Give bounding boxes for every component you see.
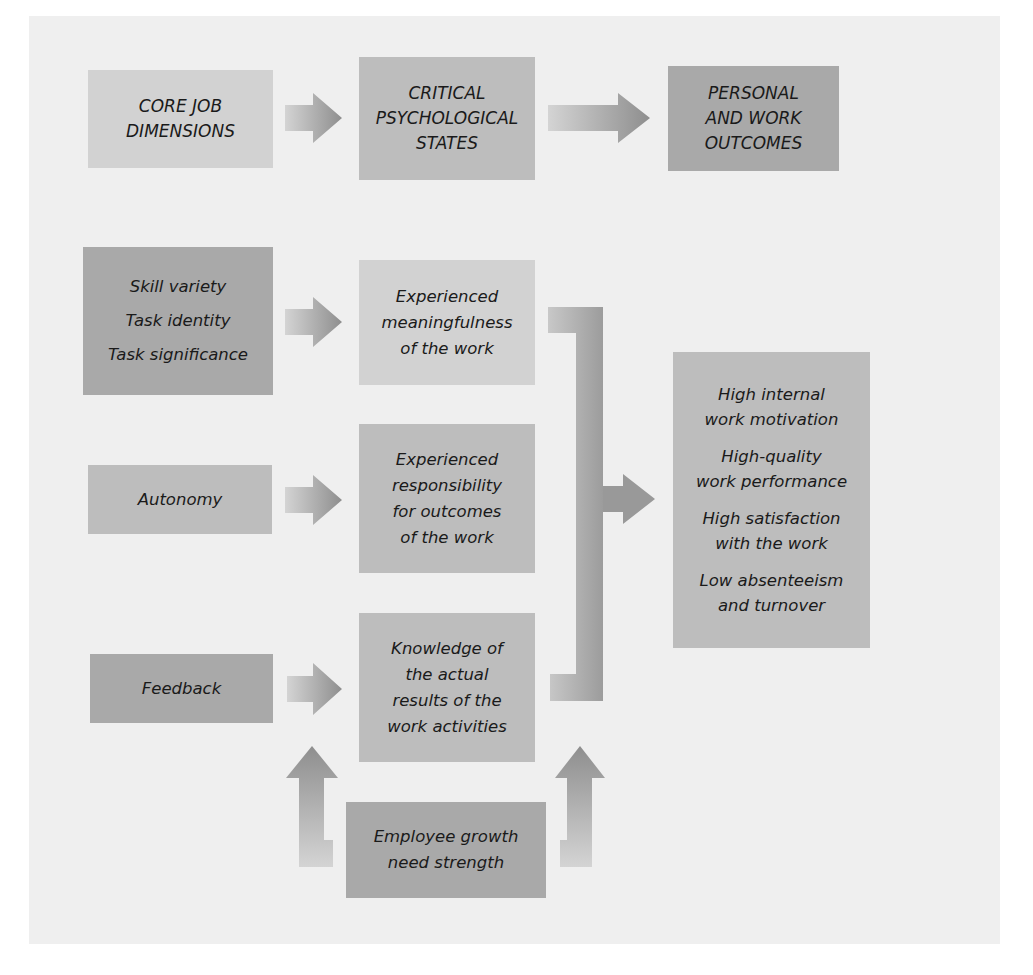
moderator-box-growth-need-strength: Employee growth need strength [346,802,546,898]
outcome-absenteeism-turnover: Low absenteeism and turnover [700,568,844,618]
header-line: CORE JOB [139,94,222,119]
state-box-meaningfulness: Experienced meaningfulness of the work [359,260,535,385]
moderator-line: need strength [388,850,504,876]
dimension-task-identity: Task identity [126,306,231,336]
state-line: for outcomes [393,499,502,525]
moderator-line: Employee growth [374,824,519,850]
outcome-satisfaction: High satisfaction with the work [702,506,840,556]
arrow-moderator-left-up-icon [286,746,338,867]
dimension-autonomy: Autonomy [138,487,223,513]
personal-work-outcomes-header: PERSONAL AND WORK OUTCOMES [668,66,839,171]
state-line: work activities [387,714,507,740]
outcome-line: High internal [705,382,839,407]
header-line: CRITICAL [408,81,485,106]
outcome-line: with the work [702,531,840,556]
outcome-line: work performance [696,469,847,494]
state-line: Experienced [396,447,499,473]
dimension-box-feedback: Feedback [90,654,273,723]
dimension-task-significance: Task significance [108,340,248,370]
state-line: of the work [400,525,493,551]
outcome-line: and turnover [700,593,844,618]
dimension-skill-variety: Skill variety [130,272,227,302]
state-line: meaningfulness [382,310,513,336]
header-line: DIMENSIONS [126,119,235,144]
outcome-line: work motivation [705,407,839,432]
outcome-work-performance: High-quality work performance [696,444,847,494]
dimension-feedback: Feedback [142,676,221,702]
outcome-internal-motivation: High internal work motivation [705,382,839,432]
header-line: PSYCHOLOGICAL [376,106,519,131]
state-line: Knowledge of [391,636,503,662]
outcome-line: Low absenteeism [700,568,844,593]
state-line: results of the [392,688,501,714]
state-line: the actual [405,662,488,688]
outcome-line: High-quality [696,444,847,469]
dimension-box-skill-identity-significance: Skill variety Task identity Task signifi… [83,247,273,395]
outcomes-box: High internal work motivation High-quali… [673,352,870,648]
state-line: responsibility [392,473,502,499]
arrow-autonomy-to-responsibility-icon [285,475,342,525]
state-line: Experienced [396,284,499,310]
state-box-responsibility: Experienced responsibility for outcomes … [359,424,535,573]
header-line: PERSONAL [708,81,799,106]
arrow-bracket-to-outcomes-icon [603,474,655,524]
header-line: OUTCOMES [705,131,803,156]
arrow-feedback-to-knowledge-icon [287,663,342,715]
arrow-core-to-critical-icon [285,93,342,143]
state-box-knowledge: Knowledge of the actual results of the w… [359,613,535,762]
header-line: STATES [416,131,478,156]
header-line: AND WORK [706,106,802,131]
arrow-group1-to-meaningfulness-icon [285,297,342,347]
dimension-box-autonomy: Autonomy [88,465,272,534]
critical-psychological-states-header: CRITICAL PSYCHOLOGICAL STATES [359,57,535,180]
arrow-moderator-right-up-icon [555,746,605,867]
bracket-icon [548,307,603,701]
state-line: of the work [400,336,493,362]
arrow-critical-to-outcomes-icon [548,93,650,143]
outcome-line: High satisfaction [702,506,840,531]
core-job-dimensions-header: CORE JOB DIMENSIONS [88,70,273,168]
